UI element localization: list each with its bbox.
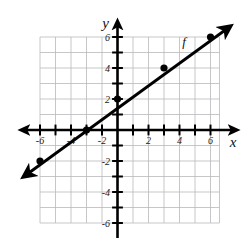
y-tick-label--4: -4 — [102, 187, 110, 198]
function-label-f: f — [182, 34, 188, 49]
x-tick-label--2: -2 — [98, 135, 106, 146]
data-point — [36, 157, 43, 164]
y-axis-label: y — [100, 15, 109, 31]
data-point — [83, 126, 90, 133]
y-tick-label-4: 4 — [105, 63, 110, 74]
y-tick-label-6: 6 — [105, 32, 110, 43]
axes — [22, 22, 236, 238]
graph-figure: -6 -4 -2 2 4 6 6 4 2 -2 -4 -6 y x f — [0, 0, 250, 247]
x-tick-label-6: 6 — [208, 135, 213, 146]
x-tick-label--6: -6 — [36, 135, 44, 146]
x-tick-label-2: 2 — [146, 135, 151, 146]
y-tick-label-2: 2 — [105, 94, 110, 105]
data-point — [114, 95, 121, 102]
coordinate-plane-svg: -6 -4 -2 2 4 6 6 4 2 -2 -4 -6 y x f — [0, 0, 250, 247]
data-point — [207, 33, 214, 40]
y-tick-label--2: -2 — [102, 156, 110, 167]
x-axis-label: x — [229, 134, 237, 150]
x-tick-labels: -6 -4 -2 2 4 6 — [36, 135, 213, 146]
y-tick-label--6: -6 — [102, 218, 110, 229]
x-tick-label-4: 4 — [177, 135, 182, 146]
function-line-f — [26, 28, 228, 175]
data-point — [160, 64, 167, 71]
